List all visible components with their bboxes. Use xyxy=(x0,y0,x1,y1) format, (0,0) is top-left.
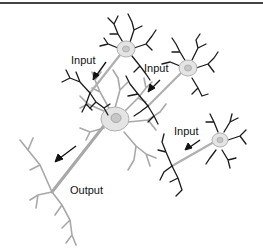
arrow-icon xyxy=(148,80,160,92)
input-neuron-2 xyxy=(126,34,218,124)
input-neuron-3 xyxy=(158,114,246,196)
input-label-3: Input xyxy=(174,126,198,137)
output-neuron xyxy=(20,70,166,245)
input-label-2: Input xyxy=(144,63,168,74)
input-label-1: Input xyxy=(71,55,95,66)
output-nucleus xyxy=(111,114,121,123)
output-label: Output xyxy=(70,185,103,196)
arrow-icon xyxy=(55,146,76,162)
arrow-icon xyxy=(185,140,200,150)
neuron-diagram xyxy=(0,0,263,250)
